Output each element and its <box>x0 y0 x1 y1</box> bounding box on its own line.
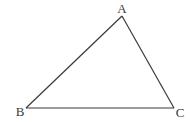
edge-ab <box>26 16 122 108</box>
triangle-canvas: A B C <box>0 0 191 126</box>
vertex-label-a: A <box>117 1 127 16</box>
triangle-diagram: A B C <box>0 0 191 126</box>
vertex-label-c: C <box>176 105 185 120</box>
vertex-label-b: B <box>16 104 25 119</box>
edge-ca <box>122 16 174 108</box>
